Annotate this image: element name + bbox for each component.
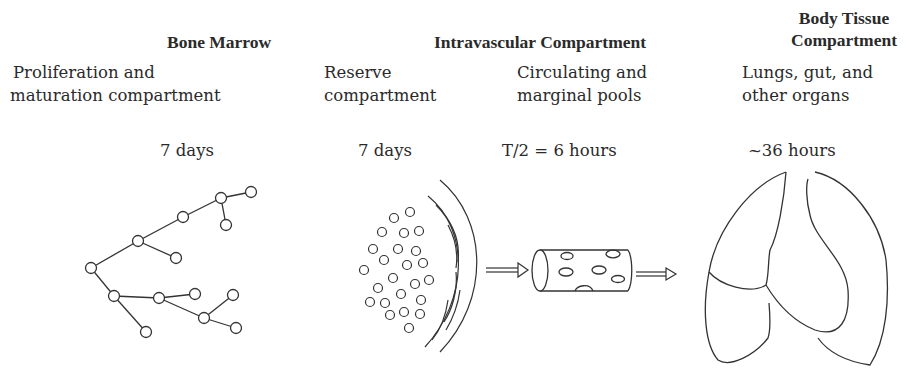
marrow-wall-icon bbox=[425, 180, 477, 352]
arrow-out-of-vessel-icon bbox=[636, 268, 676, 280]
reserve-cell-cluster-icon bbox=[360, 208, 434, 333]
arrow-into-vessel-icon bbox=[486, 263, 528, 277]
lungs-outline-icon bbox=[705, 172, 887, 365]
blood-vessel-cylinder-icon bbox=[532, 250, 632, 291]
diagram-illustrations bbox=[0, 0, 906, 370]
branching-cell-tree-icon bbox=[86, 187, 257, 338]
